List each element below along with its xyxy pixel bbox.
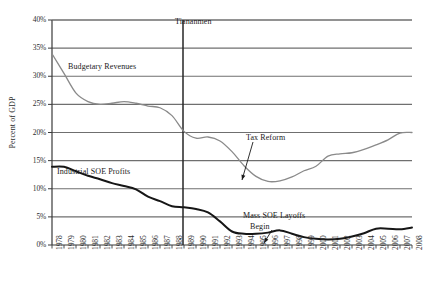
- x-tick-label: 1979: [67, 235, 76, 250]
- x-tick-label: 2003: [355, 235, 364, 250]
- x-tick-label: 1990: [199, 235, 208, 250]
- annotation-tiananmen: Tiananmen: [175, 17, 212, 26]
- x-tick-label: 1989: [187, 235, 196, 250]
- x-tick-label: 1984: [127, 235, 136, 250]
- annotation-budgetary-revenues: Budgetary Revenues: [68, 62, 136, 71]
- x-tick-label: 1991: [211, 235, 220, 250]
- x-tick-label: 2006: [391, 235, 400, 250]
- y-tick-label: 20%: [20, 128, 46, 137]
- annotation-mass-soe-layoffs-line2: Begin: [250, 222, 270, 231]
- x-tick-label: 2008: [415, 235, 424, 250]
- series-line-industrial-soe-profits: [52, 166, 412, 239]
- y-tick-label: 35%: [20, 43, 46, 52]
- x-tick-label: 1998: [295, 235, 304, 250]
- x-tick-label: 2001: [331, 235, 340, 250]
- chart-container: Percent of GDP 40%35%30%25%20%15%10%5%0%…: [0, 0, 424, 290]
- x-tick-label: 1994: [247, 235, 256, 250]
- x-tick-label: 1999: [307, 235, 316, 250]
- series-line-budgetary-revenues: [52, 54, 412, 182]
- x-tick-label: 1996: [271, 235, 280, 250]
- y-tick-label: 10%: [20, 184, 46, 193]
- y-tick-label: 5%: [20, 212, 46, 221]
- annotation-mass-soe-layoffs-line1: Mass SOE Layoffs: [243, 211, 305, 220]
- y-tick-label: 0%: [20, 240, 46, 249]
- y-tick-label: 15%: [20, 156, 46, 165]
- annotation-tax-reform: Tax Reform: [246, 133, 285, 142]
- y-tick-label: 40%: [20, 15, 46, 24]
- x-tick-label: 2004: [367, 235, 376, 250]
- x-tick-label: 1988: [175, 235, 184, 250]
- x-tick-label: 1985: [139, 235, 148, 250]
- x-tick-label: 2005: [379, 235, 388, 250]
- x-tick-label: 1980: [79, 235, 88, 250]
- x-tick-label: 2002: [343, 235, 352, 250]
- x-tick-label: 1995: [259, 235, 268, 250]
- y-tick-label: 30%: [20, 71, 46, 80]
- x-tick-label: 1992: [223, 235, 232, 250]
- data-series-group: [52, 54, 412, 240]
- y-tick-label: 25%: [20, 99, 46, 108]
- x-tick-label: 1993: [235, 235, 244, 250]
- gridlines-group: [52, 20, 412, 217]
- annotation-industrial-soe-profits: Industrial SOE Profits: [57, 167, 130, 176]
- x-tick-label: 1982: [103, 235, 112, 250]
- x-tick-label: 1987: [163, 235, 172, 250]
- x-tick-label: 2007: [403, 235, 412, 250]
- x-tick-label: 1981: [91, 235, 100, 250]
- x-tick-label: 2000: [319, 235, 328, 250]
- x-tick-label: 1986: [151, 235, 160, 250]
- y-axis-title: Percent of GDP: [8, 78, 17, 168]
- x-tick-label: 1983: [115, 235, 124, 250]
- x-tick-label: 1997: [283, 235, 292, 250]
- x-tick-label: 1978: [55, 235, 64, 250]
